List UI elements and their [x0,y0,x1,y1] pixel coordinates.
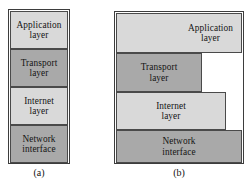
panel-b-layer-transport-label: Transportlayer [139,62,180,82]
panel-a-layer-internet: Internetlayer [10,87,68,125]
protocol-stack-figure: Applicationlayer Transportlayer Internet… [0,0,251,187]
panel-a-layer-application: Applicationlayer [10,11,68,49]
panel-a-layer-network-interface: Networkinterface [10,125,68,163]
panel-b-layer-application-label: Applicationlayer [186,23,235,43]
panel-a-uniform-stack: Applicationlayer Transportlayer Internet… [8,9,70,164]
panel-b-layer-internet: Internetlayer [116,92,226,130]
panel-a-layer-application-label: Applicationlayer [15,20,64,40]
panel-b-layer-transport: Transportlayer [116,53,202,92]
panel-b-layer-internet-label: Internetlayer [154,101,188,121]
panel-b-layer-network-interface: Networkinterface [116,130,242,163]
panel-b-caption: (b) [114,167,244,178]
panel-a-layer-transport-label: Transportlayer [19,58,60,78]
panel-a-layer-network-interface-label: Networkinterface [20,134,57,154]
panel-b-stepped-stack: Applicationlayer Transportlayer Internet… [114,11,244,164]
panel-a-layer-transport: Transportlayer [10,49,68,87]
panel-a-caption: (a) [8,167,70,178]
panel-b-layer-network-interface-label: Networkinterface [160,136,197,156]
panel-b-layer-application: Applicationlayer [116,13,242,53]
panel-a-layer-internet-label: Internetlayer [22,96,56,116]
